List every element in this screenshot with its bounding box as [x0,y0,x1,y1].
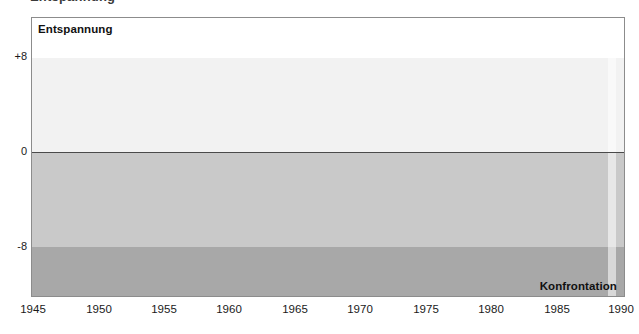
cropped-header-text: Entspannung [30,0,115,4]
x-tick-label: 1970 [347,303,373,315]
y-axis: +8 0 -8 [0,17,27,297]
band-above-plus-8 [32,18,624,58]
band-zero-to-minus-8 [32,152,624,247]
y-tick-label-plus8: +8 [3,50,27,62]
y-tick-label-zero: 0 [3,145,27,157]
cropped-header-sliver: Entspannung [0,0,639,9]
zero-reference-line [32,152,624,153]
band-below-minus-8 [32,247,624,297]
x-tick-label: 1990 [608,303,634,315]
x-tick-label: 1975 [413,303,439,315]
x-axis: 1945 1950 1955 1960 1965 1970 1975 1980 … [0,303,639,323]
x-tick-label: 1945 [20,303,46,315]
plot-area: Entspannung Konfrontation [31,17,625,297]
label-entspannung: Entspannung [38,23,113,35]
x-tick-label: 1985 [544,303,570,315]
x-tick-label: 1955 [151,303,177,315]
scan-streak [608,18,616,296]
label-konfrontation: Konfrontation [540,280,617,292]
chart-figure: Entspannung Entspannung Konfrontation +8… [0,0,639,334]
y-tick-label-minus8: -8 [3,240,27,252]
x-tick-label: 1950 [86,303,112,315]
x-tick-label: 1965 [282,303,308,315]
x-tick-label: 1960 [216,303,242,315]
band-plus-8-to-zero [32,58,624,152]
x-tick-label: 1980 [478,303,504,315]
